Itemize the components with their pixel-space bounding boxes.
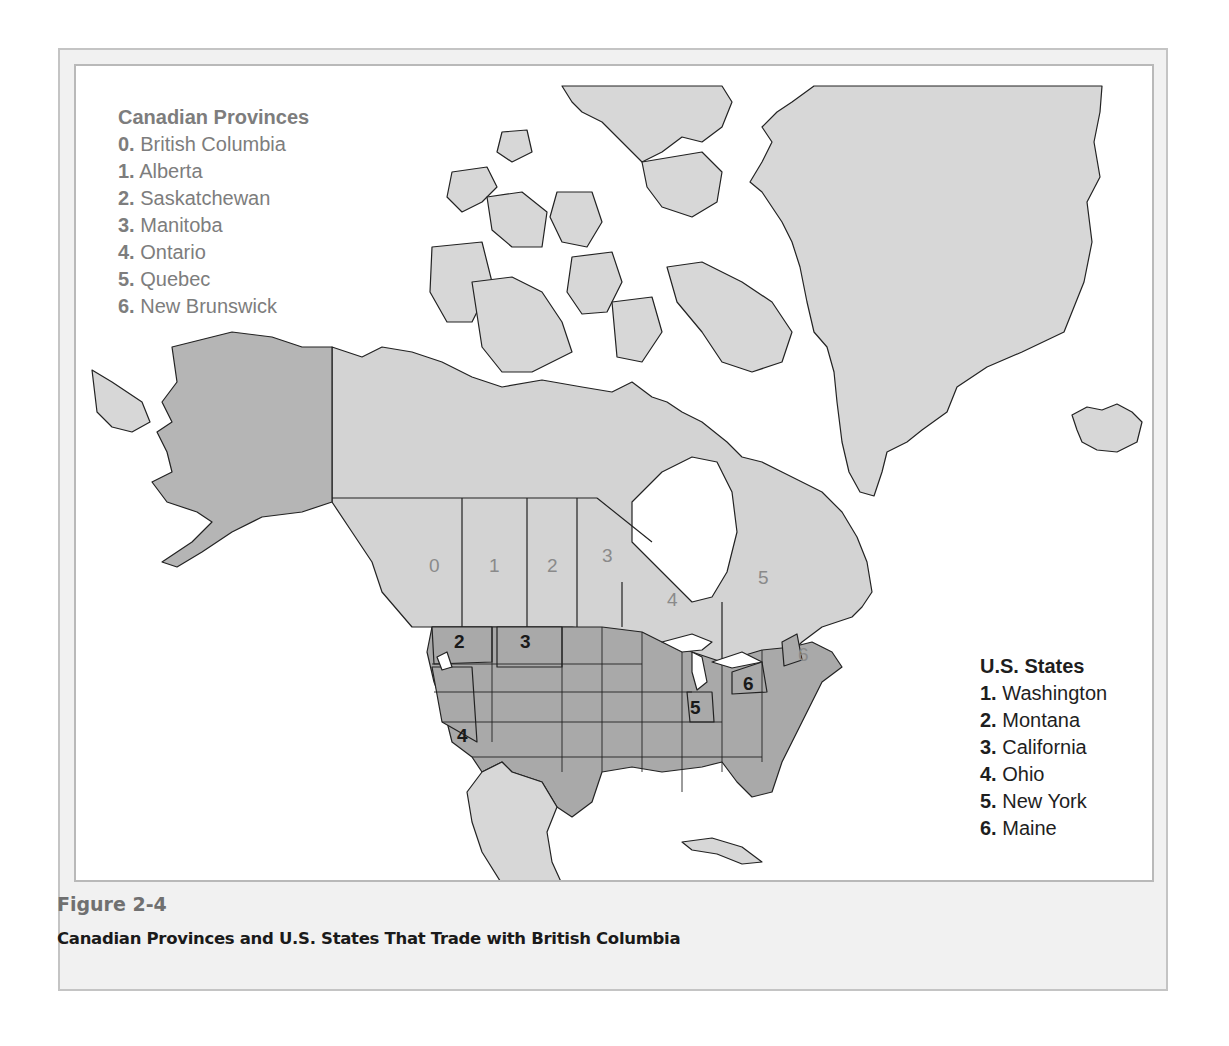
map-label-canada-0: 0 <box>429 555 440 576</box>
map-panel: 0 1 2 3 4 5 6 2 3 4 5 6 Canadian Provinc… <box>74 64 1154 882</box>
map-label-canada-2: 2 <box>547 555 558 576</box>
legend-item: 6. New Brunswick <box>118 293 309 320</box>
legend-item: 4. Ohio <box>980 761 1107 788</box>
legend-title: U.S. States <box>980 653 1107 680</box>
canada <box>332 347 872 672</box>
map-label-canada-6: 6 <box>798 644 809 665</box>
us-states-legend: U.S. States 1. Washington 2. Montana 3. … <box>980 653 1107 842</box>
map-label-us-3: 4 <box>457 725 468 746</box>
map-label-us-2: 3 <box>520 631 531 652</box>
figure-title: Canadian Provinces and U.S. States That … <box>57 929 680 948</box>
legend-item: 2. Saskatchewan <box>118 185 309 212</box>
legend-item: 5. Quebec <box>118 266 309 293</box>
legend-item: 1. Washington <box>980 680 1107 707</box>
legend-item: 6. Maine <box>980 815 1107 842</box>
legend-title: Canadian Provinces <box>118 104 309 131</box>
canadian-provinces-legend: Canadian Provinces 0. British Columbia 1… <box>118 104 309 320</box>
legend-item: 0. British Columbia <box>118 131 309 158</box>
legend-item: 5. New York <box>980 788 1107 815</box>
legend-item: 4. Ontario <box>118 239 309 266</box>
map-label-us-1: 2 <box>454 631 465 652</box>
map-label-canada-4: 4 <box>667 589 678 610</box>
map-label-us-5: 6 <box>743 673 754 694</box>
figure-number: Figure 2-4 <box>57 893 167 915</box>
legend-item: 1. Alberta <box>118 158 309 185</box>
alaska <box>152 332 332 567</box>
map-label-canada-5: 5 <box>758 567 769 588</box>
greenland <box>750 86 1102 496</box>
map-label-canada-3: 3 <box>602 545 613 566</box>
legend-item: 2. Montana <box>980 707 1107 734</box>
map-label-canada-1: 1 <box>489 555 500 576</box>
legend-item: 3. California <box>980 734 1107 761</box>
legend-item: 3. Manitoba <box>118 212 309 239</box>
map-label-us-4: 5 <box>690 697 701 718</box>
iceland <box>1072 404 1142 452</box>
